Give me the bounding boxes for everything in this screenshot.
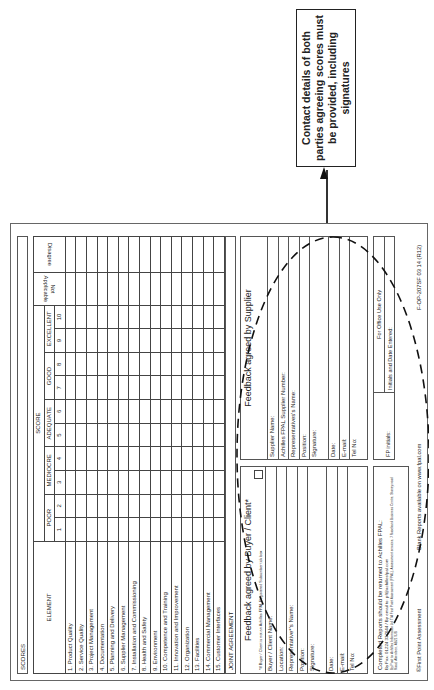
supplier-field-supplier-name[interactable]: Supplier Name: [268,237,279,459]
score-cell[interactable] [118,447,129,471]
score-cell[interactable] [108,518,119,542]
buyer-field-date[interactable]: Date: [327,467,338,673]
score-cell[interactable] [108,352,119,376]
score-cell[interactable] [203,400,214,424]
score-cell[interactable] [97,376,108,400]
score-cell[interactable] [76,329,87,353]
score-cell[interactable] [192,470,203,494]
score-cell[interactable] [139,329,150,353]
score-cell[interactable] [129,352,140,376]
disagree-cell[interactable] [86,237,97,273]
score-cell[interactable] [97,352,108,376]
score-cell[interactable] [161,470,172,494]
score-cell[interactable] [139,447,150,471]
score-cell[interactable] [139,518,150,542]
supplier-field-representatives-s-name[interactable]: Representatives's Name: [289,237,300,459]
buyer-field-tel-no[interactable]: Tel No: [348,467,358,673]
score-cell[interactable] [192,447,203,471]
not-applicable-cell[interactable] [118,272,129,305]
score-cell[interactable] [76,470,87,494]
score-cell[interactable] [118,376,129,400]
score-cell[interactable] [129,423,140,447]
score-cell[interactable] [171,400,182,424]
not-applicable-cell[interactable] [129,272,140,305]
score-cell[interactable] [150,470,161,494]
score-cell[interactable] [65,494,76,518]
score-cell[interactable] [108,423,119,447]
score-cell[interactable] [97,518,108,542]
score-cell[interactable] [86,447,97,471]
score-cell[interactable] [150,518,161,542]
score-cell[interactable] [182,305,193,329]
not-applicable-cell[interactable] [65,272,76,305]
score-cell[interactable] [192,494,203,518]
score-cell[interactable] [108,400,119,424]
score-cell[interactable] [86,494,97,518]
disagree-cell[interactable] [129,237,140,273]
score-cell[interactable] [161,494,172,518]
not-applicable-cell[interactable] [214,272,225,305]
not-applicable-cell[interactable] [86,272,97,305]
score-cell[interactable] [129,400,140,424]
score-cell[interactable] [192,352,203,376]
supplier-field-achilles-fpal-supplier-number[interactable]: Achilles FPAL Supplier Number: [279,237,290,459]
score-cell[interactable] [76,352,87,376]
score-cell[interactable] [182,329,193,353]
score-cell[interactable] [108,329,119,353]
buyer-field-buyer-client-name[interactable]: Buyer / Client Name: [266,467,277,673]
score-cell[interactable] [214,305,225,329]
score-cell[interactable] [214,352,225,376]
score-cell[interactable] [129,470,140,494]
score-cell[interactable] [86,305,97,329]
score-cell[interactable] [214,400,225,424]
score-cell[interactable] [150,305,161,329]
score-cell[interactable] [161,518,172,542]
supplier-field-tel-no[interactable]: Tel No: [350,237,360,459]
disagree-cell[interactable] [150,237,161,273]
score-cell[interactable] [118,423,129,447]
score-cell[interactable] [214,376,225,400]
score-cell[interactable] [214,447,225,471]
score-cell[interactable] [139,423,150,447]
score-cell[interactable] [108,376,119,400]
not-applicable-cell[interactable] [150,272,161,305]
score-cell[interactable] [76,494,87,518]
score-cell[interactable] [108,494,119,518]
score-cell[interactable] [86,352,97,376]
disagree-cell[interactable] [118,237,129,273]
score-cell[interactable] [192,400,203,424]
score-cell[interactable] [139,470,150,494]
score-cell[interactable] [161,376,172,400]
score-cell[interactable] [161,400,172,424]
not-applicable-cell[interactable] [182,272,193,305]
score-cell[interactable] [86,400,97,424]
not-applicable-cell[interactable] [76,272,87,305]
score-cell[interactable] [161,329,172,353]
score-cell[interactable] [203,423,214,447]
score-cell[interactable] [76,400,87,424]
score-cell[interactable] [86,423,97,447]
disagree-cell[interactable] [171,237,182,273]
score-cell[interactable] [182,494,193,518]
score-cell[interactable] [97,447,108,471]
not-subscriber-checkbox[interactable] [254,470,263,479]
score-cell[interactable] [65,447,76,471]
score-cell[interactable] [150,376,161,400]
score-cell[interactable] [118,305,129,329]
disagree-cell[interactable] [139,237,150,273]
score-cell[interactable] [150,400,161,424]
score-cell[interactable] [108,447,119,471]
score-cell[interactable] [203,447,214,471]
score-cell[interactable] [192,305,203,329]
score-cell[interactable] [118,470,129,494]
disagree-cell[interactable] [108,237,119,273]
score-cell[interactable] [171,352,182,376]
score-cell[interactable] [65,352,76,376]
score-cell[interactable] [118,352,129,376]
score-cell[interactable] [214,518,225,542]
score-cell[interactable] [76,447,87,471]
score-cell[interactable] [171,305,182,329]
score-cell[interactable] [171,423,182,447]
score-cell[interactable] [182,447,193,471]
score-cell[interactable] [65,423,76,447]
